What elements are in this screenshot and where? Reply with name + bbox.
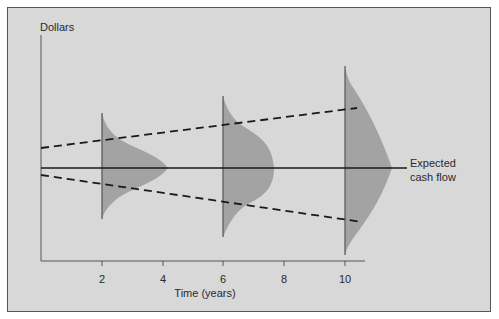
tick-label-4: 4 xyxy=(160,273,166,285)
tick-label-8: 8 xyxy=(281,273,287,285)
tick-label-2: 2 xyxy=(99,273,105,285)
cash-flow-uncertainty-chart: Dollars Expected cash flow 2 4 6 8 10 Ti… xyxy=(0,0,499,319)
expected-label-line2: cash flow xyxy=(410,171,456,183)
expected-label-line1: Expected xyxy=(410,157,456,169)
x-axis-label: Time (years) xyxy=(174,287,235,299)
tick-label-6: 6 xyxy=(220,273,226,285)
y-axis-label: Dollars xyxy=(40,21,75,33)
tick-label-10: 10 xyxy=(339,273,351,285)
